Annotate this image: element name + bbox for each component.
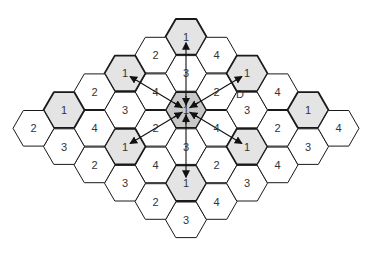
cell-label: 4 — [152, 86, 158, 98]
cell-label: 4 — [213, 196, 219, 208]
cell-label: 3 — [244, 177, 250, 189]
cell-label: 1 — [183, 104, 189, 116]
cell-label: 3 — [61, 141, 67, 153]
cell-label: 2 — [30, 122, 36, 134]
cell-label: 1 — [61, 104, 67, 116]
cell-label: 2 — [152, 49, 158, 61]
cell-label: 3 — [122, 104, 128, 116]
cell-label: 4 — [213, 122, 219, 134]
hex-reuse-diagram: 131313242424242413131313242424131324 D — [0, 0, 389, 254]
cell-label: 1 — [122, 67, 128, 79]
cell-label: 4 — [274, 159, 280, 171]
hex-grid-canvas: 131313242424242413131313242424131324 D — [0, 0, 389, 254]
cell-label: 4 — [213, 49, 219, 61]
cell-label: 3 — [122, 177, 128, 189]
cell-label: 4 — [152, 159, 158, 171]
cell-label: 3 — [244, 104, 250, 116]
cell-label: 1 — [122, 141, 128, 153]
cell-label: 1 — [244, 67, 250, 79]
cell-label: 4 — [91, 122, 97, 134]
cell-label: 3 — [183, 214, 189, 226]
cell-label: 2 — [213, 159, 219, 171]
cell-label: 2 — [152, 122, 158, 134]
cell-label: 2 — [91, 159, 97, 171]
cell-label: 1 — [183, 177, 189, 189]
cell-label: 1 — [183, 31, 189, 43]
cell-label: 1 — [244, 141, 250, 153]
cell-label: 1 — [305, 104, 311, 116]
distance-label-d: D — [236, 88, 244, 100]
cell-label: 2 — [213, 86, 219, 98]
cell-label: 4 — [335, 122, 341, 134]
cell-label: 2 — [152, 196, 158, 208]
cell-label: 3 — [183, 141, 189, 153]
cell-label: 2 — [274, 122, 280, 134]
cell-label: 3 — [183, 67, 189, 79]
cell-label: 3 — [305, 141, 311, 153]
cell-label: 2 — [91, 86, 97, 98]
cell-label: 4 — [274, 86, 280, 98]
